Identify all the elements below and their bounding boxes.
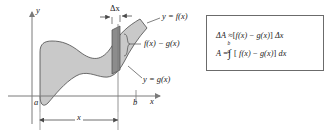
delta-x-strip — [112, 26, 120, 74]
formula2-g: g(x) — [260, 49, 274, 58]
formula1-dx: Δx — [275, 31, 284, 40]
upper-bound-label: b — [133, 98, 137, 107]
y-axis-label: y — [36, 6, 40, 15]
integral-limits: ba — [228, 47, 231, 58]
formula1-lhs: ΔA — [216, 31, 226, 40]
figure-root: y x y = f(x) y = g(x) f(x) − g(x) Δx a b… — [0, 0, 332, 137]
leader-f — [147, 18, 160, 23]
formula2-f: f(x) — [239, 49, 251, 58]
shaded-region — [40, 19, 147, 105]
integral-upper-limit: b — [228, 41, 231, 46]
x-distance-label: x — [75, 113, 83, 122]
lower-bound-label: a — [34, 98, 38, 107]
formula1-g: g(x) — [256, 31, 270, 40]
formula2-dx: dx — [278, 49, 286, 58]
integral-lower-limit: a — [228, 49, 231, 54]
formula1-f: f(x) — [236, 31, 248, 40]
delta-x-label: Δx — [110, 4, 120, 13]
x-axis-label: x — [150, 97, 154, 106]
formula-delta-a: ΔA ≈[f(x) − g(x)] Δx — [216, 31, 284, 40]
strip-height-label: f(x) − g(x) — [144, 39, 179, 48]
formula-area-integral: A =∫ba[ f(x) − g(x)] dx — [216, 46, 286, 58]
curve-label-lower: y = g(x) — [143, 75, 170, 84]
curve-label-upper: y = f(x) — [162, 12, 188, 21]
leader-g — [128, 66, 142, 78]
formula-box: ΔA ≈[f(x) − g(x)] Δx A =∫ba[ f(x) − g(x)… — [206, 15, 324, 71]
